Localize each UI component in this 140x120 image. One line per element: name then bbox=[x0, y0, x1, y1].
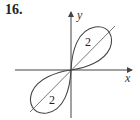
polar-curve-diagram: y x 2 2 bbox=[0, 0, 140, 120]
x-axis-label: x bbox=[124, 71, 131, 85]
lower-lobe-label: 2 bbox=[49, 93, 55, 107]
upper-lobe-label: 2 bbox=[85, 35, 91, 49]
diagonal-line bbox=[30, 26, 115, 112]
y-axis-label: y bbox=[76, 8, 83, 22]
upper-lobe bbox=[71, 27, 111, 70]
